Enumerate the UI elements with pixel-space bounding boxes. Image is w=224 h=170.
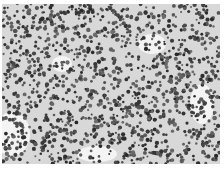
image-frame — [0, 0, 224, 170]
nuclei-pattern — [2, 4, 220, 164]
histology-micrograph — [2, 4, 220, 164]
